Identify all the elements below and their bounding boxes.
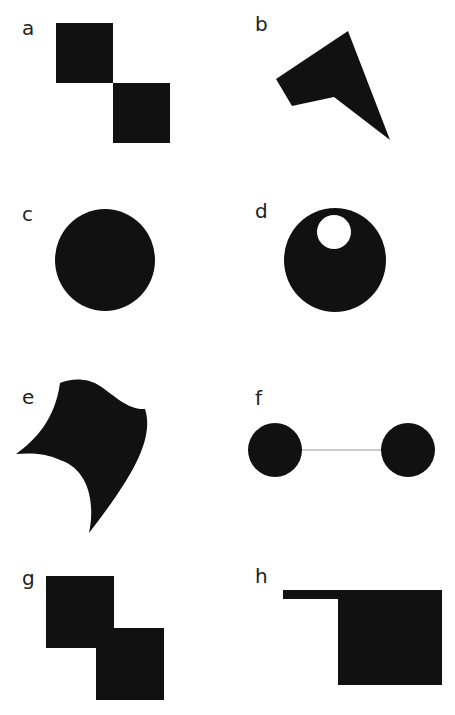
panel-h-shape (283, 590, 442, 685)
panel-e-shape (16, 380, 147, 533)
thin-bar (283, 590, 340, 599)
panel-f-shape (248, 423, 435, 477)
panel-label-h: h (255, 566, 268, 586)
square-top-left (56, 23, 113, 83)
inner-hole (317, 215, 351, 249)
panel-c-circle (55, 209, 155, 311)
panel-label-d: d (255, 201, 268, 221)
square-bottom-right (113, 83, 170, 143)
panel-label-f: f (255, 388, 262, 408)
panel-g-shape (46, 576, 164, 700)
panel-b-shape (276, 31, 390, 140)
left-circle (248, 423, 302, 477)
panel-d-shape (284, 208, 386, 312)
panel-label-b: b (255, 14, 268, 34)
shapes-figure (0, 0, 455, 715)
panel-label-e: e (22, 387, 34, 407)
large-rectangle (338, 590, 442, 685)
panel-label-g: g (22, 568, 35, 588)
panel-label-a: a (22, 18, 34, 38)
panel-label-c: c (22, 204, 33, 224)
right-circle (381, 423, 435, 477)
square-bottom-right (96, 628, 164, 700)
panel-a-shape (56, 23, 170, 143)
